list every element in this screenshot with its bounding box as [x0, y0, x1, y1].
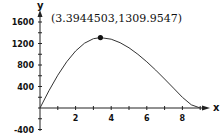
y-tick-label: 1600: [12, 18, 35, 27]
line-chart: -40040080012001600 2468 y x (3.3944503,1…: [0, 0, 223, 133]
x-tick-label: 8: [180, 114, 186, 123]
y-tick-label: 800: [17, 61, 34, 70]
x-tick-label: 6: [144, 114, 150, 123]
y-tick-label: 400: [17, 83, 34, 92]
max-point-annotation: (3.3944503,1309.9547): [51, 12, 182, 25]
x-axis-ticks: 2468: [58, 106, 200, 123]
data-curve: [40, 38, 200, 108]
max-point-marker: [98, 35, 103, 40]
x-tick-label: 4: [108, 114, 114, 123]
x-axis-label: x: [213, 102, 220, 113]
x-axis-arrow-icon: [202, 106, 210, 111]
y-axis-arrow-icon: [38, 10, 43, 17]
x-tick-label: 2: [73, 114, 79, 123]
y-tick-label: 1200: [12, 40, 35, 49]
y-axis-ticks: -40040080012001600: [12, 18, 42, 133]
y-axis-label: y: [37, 0, 44, 11]
y-tick-label: -400: [14, 126, 34, 134]
